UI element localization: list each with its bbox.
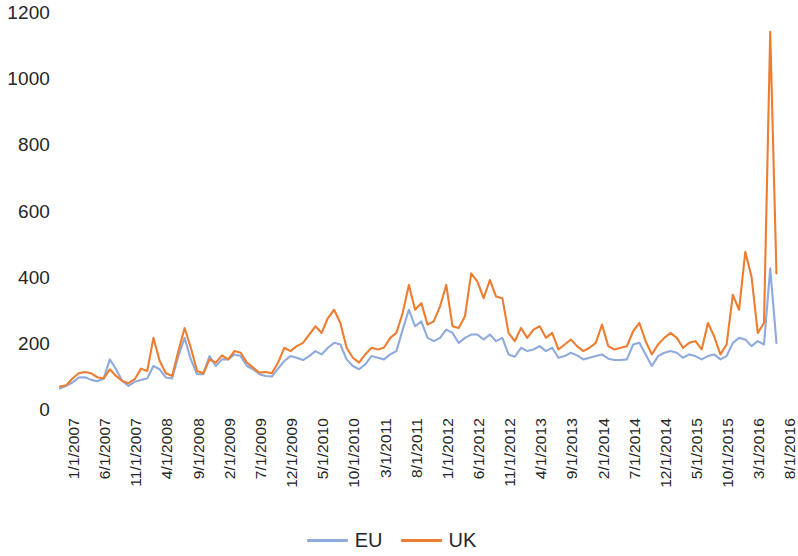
x-tick-label: 9/1/2013 xyxy=(564,418,580,479)
y-tick-label: 800 xyxy=(18,135,50,154)
x-tick-label: 1/1/2012 xyxy=(440,418,456,479)
y-axis: 120010008006004002000 xyxy=(0,0,58,420)
x-tick-label: 12/1/2014 xyxy=(658,418,674,488)
series-line-eu xyxy=(60,268,776,388)
legend-swatch-icon xyxy=(401,539,442,542)
x-tick-label: 9/1/2008 xyxy=(191,418,207,479)
y-tick-label: 1000 xyxy=(7,69,50,88)
y-tick-label: 600 xyxy=(18,201,50,220)
x-tick-label: 10/1/2010 xyxy=(346,418,362,488)
chart-legend: EUUK xyxy=(0,524,783,556)
x-tick-label: 11/1/2012 xyxy=(502,418,518,487)
y-tick-label: 1200 xyxy=(7,3,50,22)
plot-area xyxy=(58,0,783,412)
x-tick-label: 7/1/2009 xyxy=(253,418,269,479)
x-tick-label: 5/1/2010 xyxy=(315,418,331,479)
x-tick-label: 3/1/2016 xyxy=(751,418,767,479)
x-tick-label: 8/1/2016 xyxy=(782,418,798,479)
legend-item-eu[interactable]: EU xyxy=(307,530,383,550)
x-tick-label: 10/1/2015 xyxy=(720,418,736,488)
x-tick-label: 6/1/2012 xyxy=(471,418,487,479)
x-tick-label: 11/1/2007 xyxy=(128,418,144,487)
x-tick-label: 8/1/2011 xyxy=(409,418,425,478)
x-tick-label: 4/1/2013 xyxy=(533,418,549,479)
x-tick-label: 3/1/2011 xyxy=(378,418,394,478)
x-tick-label: 12/1/2009 xyxy=(284,418,300,488)
x-tick-label: 2/1/2009 xyxy=(222,418,238,479)
y-tick-label: 0 xyxy=(39,400,50,419)
x-tick-label: 5/1/2015 xyxy=(689,418,705,479)
y-tick-label: 400 xyxy=(18,267,50,286)
x-tick-label: 1/1/2007 xyxy=(66,418,82,479)
legend-label: UK xyxy=(449,530,477,550)
x-axis: 1/1/20076/1/200711/1/20074/1/20089/1/200… xyxy=(58,412,783,522)
legend-swatch-icon xyxy=(307,539,348,542)
legend-item-uk[interactable]: UK xyxy=(401,530,477,550)
x-tick-label: 4/1/2008 xyxy=(159,418,175,479)
series-line-uk xyxy=(60,32,776,387)
y-tick-label: 200 xyxy=(18,333,50,352)
series-canvas xyxy=(58,0,783,412)
x-tick-label: 7/1/2014 xyxy=(627,418,643,479)
x-tick-label: 6/1/2007 xyxy=(97,418,113,479)
x-tick-label: 2/1/2014 xyxy=(596,418,612,479)
legend-label: EU xyxy=(355,530,383,550)
